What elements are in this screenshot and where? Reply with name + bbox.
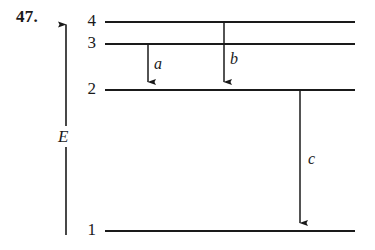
transition-label-c: c [308, 150, 315, 168]
transition-label-a: a [154, 55, 162, 73]
level-label-4: 4 [78, 11, 96, 31]
transition-arrows [148, 22, 300, 223]
level-label-1: 1 [78, 220, 96, 240]
energy-axis-label: E [57, 126, 69, 147]
level-label-3: 3 [78, 33, 96, 53]
transition-label-b: b [230, 50, 238, 68]
diagram-canvas [0, 0, 375, 250]
energy-level-diagram: 47. E 4 3 2 1 [0, 0, 375, 250]
level-label-2: 2 [78, 79, 96, 99]
